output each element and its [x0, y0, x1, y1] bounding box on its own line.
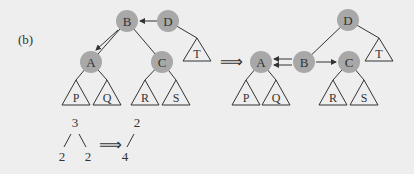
- subtree-Q: Q: [103, 91, 112, 105]
- node-B: B: [123, 14, 132, 29]
- node-A: A: [256, 55, 266, 70]
- node-A: A: [86, 55, 96, 70]
- subtree-T: T: [193, 47, 201, 61]
- rank-child-after: 4: [122, 149, 129, 164]
- right-tree-nodes: A B C D: [250, 9, 360, 73]
- subtree-P: P: [73, 91, 80, 105]
- node-C: C: [158, 55, 167, 70]
- subtree-S: S: [173, 91, 180, 105]
- rank-implies-arrow: ⟹: [99, 136, 122, 153]
- node-C: C: [345, 55, 354, 70]
- subtree-R: R: [141, 91, 149, 105]
- rank-root-before: 3: [72, 115, 79, 130]
- subtree-P: P: [243, 91, 250, 105]
- implies-arrow: ⟹: [220, 53, 243, 70]
- subtree-T: T: [375, 47, 383, 61]
- node-D: D: [163, 14, 172, 29]
- rank-root-after: 2: [134, 115, 141, 130]
- subtree-R: R: [329, 91, 337, 105]
- rank-left-before: 2: [59, 149, 66, 164]
- left-tree-nodes: B D A C: [80, 10, 179, 73]
- subtree-Q: Q: [272, 91, 281, 105]
- figure-label: (b): [18, 32, 33, 47]
- left-subtrees: [62, 38, 211, 105]
- tree-rotation-diagram: (b) P Q R S T B D A C: [0, 0, 414, 174]
- rank-example: 3 2 2 ⟹ 2 4: [59, 115, 141, 164]
- rank-right-before: 2: [85, 149, 92, 164]
- subtree-S: S: [361, 91, 368, 105]
- node-D: D: [343, 13, 352, 28]
- node-B: B: [300, 55, 309, 70]
